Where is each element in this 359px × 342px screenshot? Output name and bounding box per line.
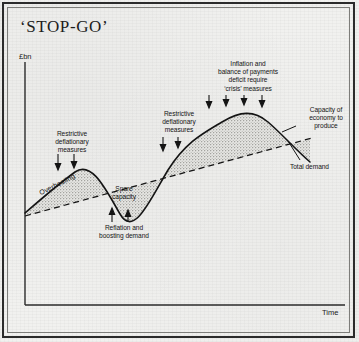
annotation-crisis-measures: Inflation and balance of payments defici… xyxy=(196,60,300,93)
annotation-spare-capacity: Spare capacity xyxy=(102,185,146,201)
arrow-group-restrictive-1 xyxy=(55,154,76,170)
annotation-total-demand: Total demand xyxy=(290,163,348,171)
annotation-restrictive-deflationary-2: Restrictive deflationary measures xyxy=(148,110,210,135)
leader-line-capacity xyxy=(282,126,296,132)
figure-container: ‘STOP-GO’ £bn Time xyxy=(0,0,359,342)
annotation-restrictive-deflationary-1: Restrictive deflationary measures xyxy=(40,130,104,155)
annotation-capacity-of-economy: Capacity of economy to produce xyxy=(298,106,354,131)
arrow-group-crisis xyxy=(206,95,264,108)
arrow-group-restrictive-2 xyxy=(160,137,180,151)
annotation-reflation-boosting-demand: Reflation and boosting demand xyxy=(82,224,166,240)
